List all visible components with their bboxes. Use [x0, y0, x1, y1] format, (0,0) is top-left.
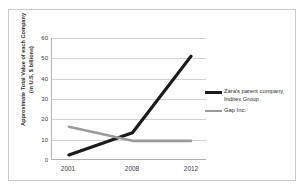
- x-tick-label: 2001: [61, 165, 75, 172]
- legend-label-zara: Zara's parent company, Inditex Group: [224, 88, 297, 103]
- legend-swatch-gap-icon: [205, 110, 222, 112]
- legend-label-zara-line-2: Inditex Group: [224, 96, 259, 102]
- y-tick-label: 20: [41, 116, 48, 123]
- y-tick-label: 10: [41, 136, 48, 143]
- legend-swatch-zara-icon: [205, 91, 222, 94]
- y-tick-label: 0: [45, 157, 48, 164]
- y-tick-label: 30: [41, 96, 48, 103]
- chart-figure-frame: Approximate Total Value of each Company …: [8, 9, 296, 181]
- y-tick-label: 50: [41, 55, 48, 62]
- legend-item-gap: Gap Inc.: [205, 107, 297, 115]
- plot-area: [51, 38, 206, 160]
- legend-item-zara: Zara's parent company, Inditex Group: [205, 88, 297, 103]
- chart-legend: Zara's parent company, Inditex Group Gap…: [205, 88, 297, 119]
- x-axis-tick-labels: 2001 2008 2012: [51, 165, 206, 177]
- x-tick-label: 2008: [125, 165, 139, 172]
- y-tick-label: 40: [41, 75, 48, 82]
- legend-label-gap: Gap Inc.: [224, 107, 246, 115]
- series-plot: [52, 38, 206, 159]
- x-tick-label: 2012: [184, 165, 198, 172]
- legend-label-zara-line-1: Zara's parent company,: [224, 88, 284, 94]
- y-axis-tick-labels: 60 50 40 30 20 10 0: [27, 38, 48, 160]
- y-tick-label: 60: [41, 35, 48, 42]
- y-axis-title-line-1: Approximate Total Value of each Company: [20, 12, 28, 128]
